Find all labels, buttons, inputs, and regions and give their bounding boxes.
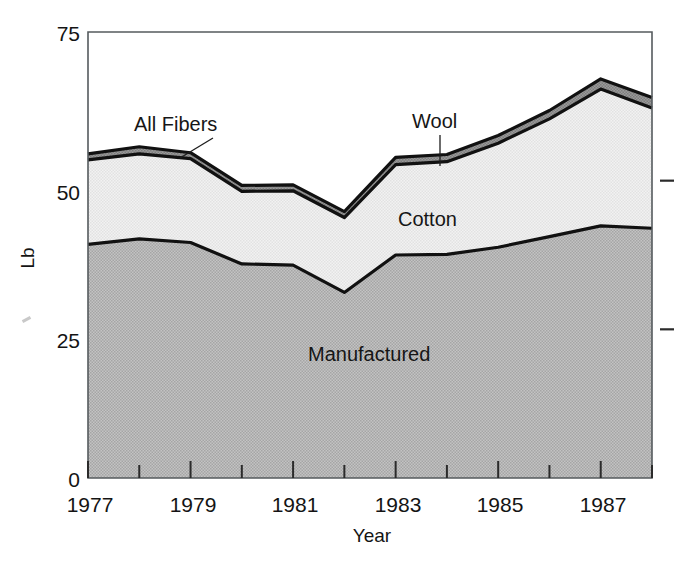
y-tick-label-50: 50 bbox=[57, 181, 80, 204]
y-axis-labels: 75 50 25 0 Lb bbox=[17, 22, 80, 491]
y-tick-label-25: 25 bbox=[57, 329, 80, 352]
chart-figure: 75 50 25 0 Lb 1977 1979 1981 1983 1985 1… bbox=[0, 0, 683, 566]
label-cotton: Cotton bbox=[398, 208, 457, 230]
x-tick-label-1981: 1981 bbox=[272, 493, 319, 516]
x-axis-title: Year bbox=[353, 525, 392, 546]
x-axis-labels: 1977 1979 1981 1983 1985 1987 Year bbox=[67, 493, 627, 546]
x-tick-label-1983: 1983 bbox=[375, 493, 422, 516]
area-chart-svg: 75 50 25 0 Lb 1977 1979 1981 1983 1985 1… bbox=[0, 0, 683, 566]
y-axis-title: Lb bbox=[17, 247, 38, 268]
x-tick-label-1979: 1979 bbox=[170, 493, 217, 516]
label-wool: Wool bbox=[412, 110, 457, 132]
plot-areas bbox=[88, 79, 652, 478]
x-tick-label-1977: 1977 bbox=[67, 493, 114, 516]
label-all-fibers: All Fibers bbox=[134, 113, 217, 135]
right-edge-ticks bbox=[660, 181, 674, 330]
y-tick-label-75: 75 bbox=[57, 22, 80, 45]
label-manufactured: Manufactured bbox=[308, 343, 430, 365]
x-tick-label-1987: 1987 bbox=[580, 493, 627, 516]
x-tick-label-1985: 1985 bbox=[477, 493, 524, 516]
y-tick-label-0: 0 bbox=[68, 468, 80, 491]
